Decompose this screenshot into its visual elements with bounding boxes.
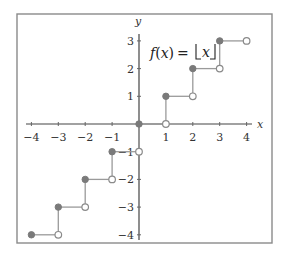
y-tick-label: −2 xyxy=(118,173,134,186)
open-point xyxy=(190,93,197,100)
closed-point xyxy=(82,176,88,182)
annotation-x-floor-text: x xyxy=(202,44,210,60)
open-point xyxy=(216,65,223,72)
x-tick-label: −1 xyxy=(104,131,120,144)
open-point xyxy=(163,121,170,128)
open-point xyxy=(55,232,62,239)
annotation-x-floor: x xyxy=(202,44,210,60)
annotation-x-arg: x xyxy=(161,45,169,61)
y-tick-label: −4 xyxy=(118,229,134,242)
closed-point xyxy=(190,65,196,71)
open-point xyxy=(243,38,250,45)
y-tick-label: 3 xyxy=(127,35,134,48)
closed-point xyxy=(163,93,169,99)
open-point xyxy=(136,148,143,155)
x-axis-label: x xyxy=(257,118,264,131)
x-tick-label: −3 xyxy=(50,131,66,144)
y-axis-label: y xyxy=(134,15,142,28)
closed-point xyxy=(28,232,34,238)
floor-function-chart: x y −4−3−2−11234 321−1−2−3−4 f(x)= x xyxy=(0,0,286,256)
annotation-equals: = xyxy=(177,45,189,61)
closed-point xyxy=(55,204,61,210)
closed-point xyxy=(136,121,142,127)
x-tick-label: −4 xyxy=(23,131,39,144)
x-tick-label: −2 xyxy=(77,131,93,144)
x-tick-label: 1 xyxy=(162,131,169,144)
closed-point xyxy=(217,38,223,44)
closed-point xyxy=(109,149,115,155)
function-annotation: f(x)= xyxy=(149,45,189,61)
open-point xyxy=(109,176,116,183)
y-tick-label: 2 xyxy=(127,63,134,76)
open-point xyxy=(82,204,89,211)
x-tick-label: 4 xyxy=(243,131,250,144)
x-tick-label: 2 xyxy=(189,131,196,144)
y-tick-label: 1 xyxy=(127,90,134,103)
annotation-close-paren: ) xyxy=(169,45,174,61)
y-tick-label: −3 xyxy=(118,201,134,214)
x-tick-label: 3 xyxy=(216,131,223,144)
